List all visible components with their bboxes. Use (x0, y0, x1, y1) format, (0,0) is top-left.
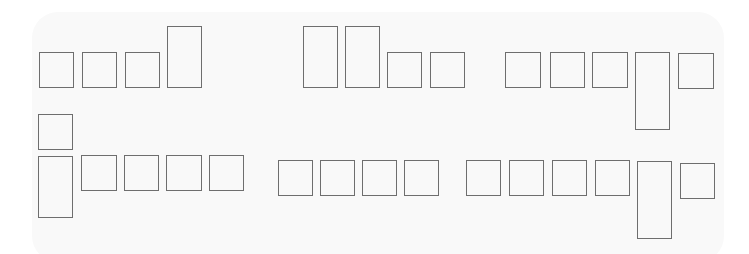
diagram-canvas (0, 0, 749, 254)
tall-rectangle-box (635, 52, 670, 130)
square-box (82, 52, 117, 88)
square-box (209, 155, 244, 191)
square-box (39, 52, 74, 88)
tall-rectangle-box (303, 26, 338, 88)
square-box (278, 160, 313, 196)
square-box (678, 53, 714, 89)
square-box (320, 160, 355, 196)
square-box (552, 160, 587, 196)
square-box (125, 52, 160, 88)
tall-rectangle-box (167, 26, 202, 88)
square-box (466, 160, 501, 196)
square-box (81, 155, 117, 191)
square-box (430, 52, 465, 88)
tall-rectangle-box (345, 26, 380, 88)
square-box (124, 155, 159, 191)
square-box (166, 155, 202, 191)
square-box (362, 160, 397, 196)
tall-rectangle-box (637, 161, 672, 239)
square-box (550, 52, 585, 88)
square-box (404, 160, 439, 196)
square-box (595, 160, 630, 196)
square-box (387, 52, 422, 88)
square-box (592, 52, 628, 88)
square-box (505, 52, 541, 88)
square-box (38, 114, 73, 150)
square-box (509, 160, 544, 196)
square-box (680, 163, 715, 199)
tall-rectangle-box (38, 156, 73, 218)
